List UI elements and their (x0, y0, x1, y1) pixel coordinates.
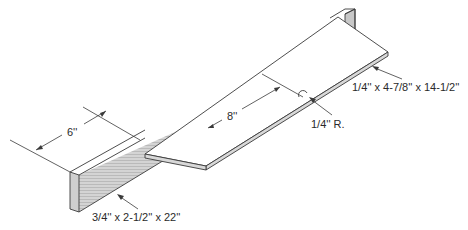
dim-6-inch-label: 6'' (67, 127, 77, 138)
fence-dimension-label: 3/4'' x 2-1/2'' x 22'' (92, 212, 180, 223)
base-board (145, 17, 388, 170)
base-board-dimension-label: 1/4'' x 4-7/8'' x 14-1/2'' (352, 82, 459, 93)
notch-radius-label: 1/4'' R. (311, 119, 345, 130)
dim-8-inch-label: 8'' (227, 111, 237, 122)
